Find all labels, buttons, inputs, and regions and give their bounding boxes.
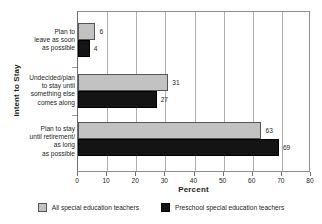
x-tick-label: 20 — [123, 177, 147, 184]
x-tick-label: 30 — [152, 177, 176, 184]
legend-item-preschool-special-education-teachers: Preschool special education teachers — [161, 203, 284, 212]
x-tick — [106, 172, 107, 176]
bar-2-1 — [78, 139, 279, 156]
y-category-tick — [72, 67, 77, 68]
x-tick — [135, 172, 136, 176]
legend-swatch-icon — [161, 203, 170, 212]
legend-label: Preschool special education teachers — [175, 204, 284, 211]
x-tick-label: 50 — [211, 177, 235, 184]
category-label-line: Plan to — [5, 28, 75, 36]
legend-label: All special education teachers — [52, 204, 139, 211]
x-tick — [223, 172, 224, 176]
bar-0-0 — [78, 23, 95, 40]
bar-0-1 — [78, 40, 90, 57]
y-category-tick — [72, 115, 77, 116]
x-tick — [77, 172, 78, 176]
bar-value-label: 63 — [265, 127, 272, 135]
category-label-line: as possible — [5, 44, 75, 52]
category-label-2: Plan to stay until retirement/ as long a… — [5, 125, 75, 158]
category-label-line: as long — [5, 141, 75, 149]
category-label-line: Plan to stay — [5, 125, 75, 133]
x-tick — [310, 172, 311, 176]
bar-value-label: 27 — [161, 96, 168, 104]
x-tick-label: 40 — [182, 177, 206, 184]
x-tick-label: 80 — [298, 177, 322, 184]
x-tick-label: 60 — [240, 177, 264, 184]
legend: All special education teachers Preschool… — [0, 203, 322, 212]
bar-value-label: 4 — [94, 45, 98, 53]
bar-chart: Intent to Stay Plan to leave as soon as … — [0, 0, 322, 224]
bar-value-label: 31 — [172, 79, 179, 87]
x-tick-label: 10 — [94, 177, 118, 184]
x-tick — [194, 172, 195, 176]
x-tick — [252, 172, 253, 176]
bar-value-label: 69 — [283, 144, 290, 152]
x-tick-label: 0 — [65, 177, 89, 184]
category-label-line: something else — [5, 90, 75, 98]
category-label-1: Undecided/plan to stay until something e… — [5, 74, 75, 107]
bar-2-0 — [78, 122, 261, 139]
category-label-line: as possible — [5, 150, 75, 158]
category-label-0: Plan to leave as soon as possible — [5, 28, 75, 53]
x-tick — [281, 172, 282, 176]
bar-1-1 — [78, 91, 157, 108]
bar-1-0 — [78, 74, 168, 91]
category-label-line: to stay until — [5, 82, 75, 90]
plot-area: 6431276369 — [77, 11, 310, 172]
category-label-line: until retirement/ — [5, 133, 75, 141]
x-tick — [164, 172, 165, 176]
legend-swatch-icon — [38, 203, 47, 212]
legend-item-all-special-education-teachers: All special education teachers — [38, 203, 139, 212]
x-tick-label: 70 — [269, 177, 293, 184]
category-label-line: comes along — [5, 99, 75, 107]
category-label-line: leave as soon — [5, 36, 75, 44]
x-axis-title: Percent — [77, 185, 310, 194]
bar-value-label: 6 — [99, 28, 103, 36]
category-label-line: Undecided/plan — [5, 74, 75, 82]
